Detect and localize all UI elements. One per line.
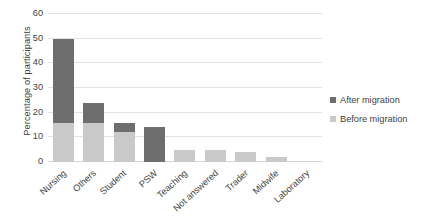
bar-stack — [114, 123, 135, 162]
x-tick-label: Nursing — [37, 168, 67, 197]
legend-swatch-icon — [330, 116, 336, 122]
chart-legend: After migrationBefore migration — [330, 95, 434, 133]
bar-segment-before-migration — [174, 150, 195, 162]
x-label-slot: Not answered — [200, 164, 230, 224]
bar-segment-before-migration — [83, 123, 104, 162]
bar-segment-after-migration — [144, 127, 165, 162]
x-label-slot: Nursing — [48, 164, 78, 224]
bar-stack — [205, 150, 226, 162]
y-tick-label: 0 — [38, 156, 43, 166]
bar-group — [109, 14, 139, 162]
bar-stack — [53, 39, 74, 162]
y-tick-label: 60 — [33, 8, 43, 18]
y-tick-label: 50 — [33, 33, 43, 43]
x-axis-labels: NursingOthersStudentPSWTeachingNot answe… — [48, 164, 322, 224]
bar-stack — [144, 127, 165, 162]
bar-segment-before-migration — [53, 123, 74, 162]
bars-layer — [48, 14, 322, 162]
bar-stack — [235, 152, 256, 162]
bar-group — [292, 14, 322, 162]
bar-stack — [266, 157, 287, 162]
x-tick-label: PSW — [137, 168, 159, 189]
bar-segment-before-migration — [235, 152, 256, 162]
bar-stack — [174, 150, 195, 162]
y-tick-label: 40 — [33, 57, 43, 67]
y-tick-label: 30 — [33, 82, 43, 92]
bar-segment-after-migration — [53, 39, 74, 123]
bar-group — [78, 14, 108, 162]
bar-group — [261, 14, 291, 162]
bar-segment-before-migration — [205, 150, 226, 162]
bar-segment-after-migration — [83, 103, 104, 123]
y-tick-label: 20 — [33, 107, 43, 117]
x-label-slot: Laboratory — [292, 164, 322, 224]
y-tick-label: 10 — [33, 131, 43, 141]
chart-figure: Percentage of participants 0102030405060… — [0, 0, 438, 224]
bar-stack — [83, 103, 104, 162]
x-label-slot: Student — [109, 164, 139, 224]
bar-segment-before-migration — [266, 157, 287, 162]
legend-label: After migration — [340, 95, 400, 105]
legend-label: Before migration — [340, 114, 407, 124]
bar-group — [170, 14, 200, 162]
bar-group — [139, 14, 169, 162]
bar-group — [231, 14, 261, 162]
y-axis-title: Percentage of participants — [22, 6, 32, 156]
bar-group — [48, 14, 78, 162]
legend-swatch-icon — [330, 97, 336, 103]
bar-group — [200, 14, 230, 162]
bar-segment-after-migration — [114, 123, 135, 133]
bar-segment-before-migration — [114, 132, 135, 162]
legend-item[interactable]: After migration — [330, 95, 434, 105]
legend-item[interactable]: Before migration — [330, 114, 434, 124]
plot-area: 0102030405060 — [48, 14, 322, 162]
